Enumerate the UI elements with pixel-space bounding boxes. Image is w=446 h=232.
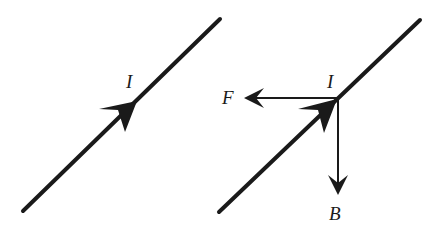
field-label: B	[329, 203, 341, 224]
left-current-label: I	[125, 71, 134, 92]
right-wire	[219, 20, 420, 212]
force-label: F	[221, 87, 234, 108]
right-panel: F B I	[219, 20, 420, 224]
right-current-label: I	[326, 71, 335, 92]
diagram-canvas: I F B I	[0, 0, 446, 232]
left-panel: I	[23, 19, 220, 211]
